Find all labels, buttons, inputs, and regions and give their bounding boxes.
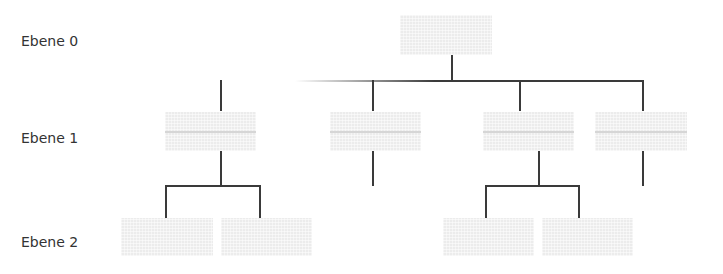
connector-root-down xyxy=(451,55,453,81)
connector-level1-bus xyxy=(295,80,644,82)
connector-node-c-down xyxy=(538,151,540,187)
node-root xyxy=(400,15,492,55)
connector-to-node-c xyxy=(519,80,521,111)
node-level1-d xyxy=(595,112,687,151)
connector-to-node-a xyxy=(220,80,222,111)
connector-to-node-d xyxy=(642,80,644,111)
level-label-2: Ebene 2 xyxy=(21,234,78,250)
node-level2-c1 xyxy=(443,218,534,256)
connector-to-node-b xyxy=(372,80,374,111)
level-label-0: Ebene 0 xyxy=(21,33,78,49)
node-level1-c xyxy=(483,112,574,151)
connector-node-a-bus xyxy=(165,185,260,187)
connector-to-node-a1 xyxy=(165,185,167,218)
node-level2-a2 xyxy=(221,218,312,256)
connector-node-d-down xyxy=(642,151,644,186)
node-level2-a1 xyxy=(121,218,213,256)
node-level1-b xyxy=(330,112,421,151)
connector-to-node-a2 xyxy=(259,185,261,218)
connector-node-a-down xyxy=(220,151,222,187)
connector-node-c-bus xyxy=(485,185,580,187)
node-level1-a xyxy=(165,112,256,151)
node-level2-c2 xyxy=(542,218,633,256)
connector-to-node-c2 xyxy=(578,185,580,218)
level-label-1: Ebene 1 xyxy=(21,130,78,146)
connector-node-b-down xyxy=(372,151,374,186)
connector-to-node-c1 xyxy=(485,185,487,218)
